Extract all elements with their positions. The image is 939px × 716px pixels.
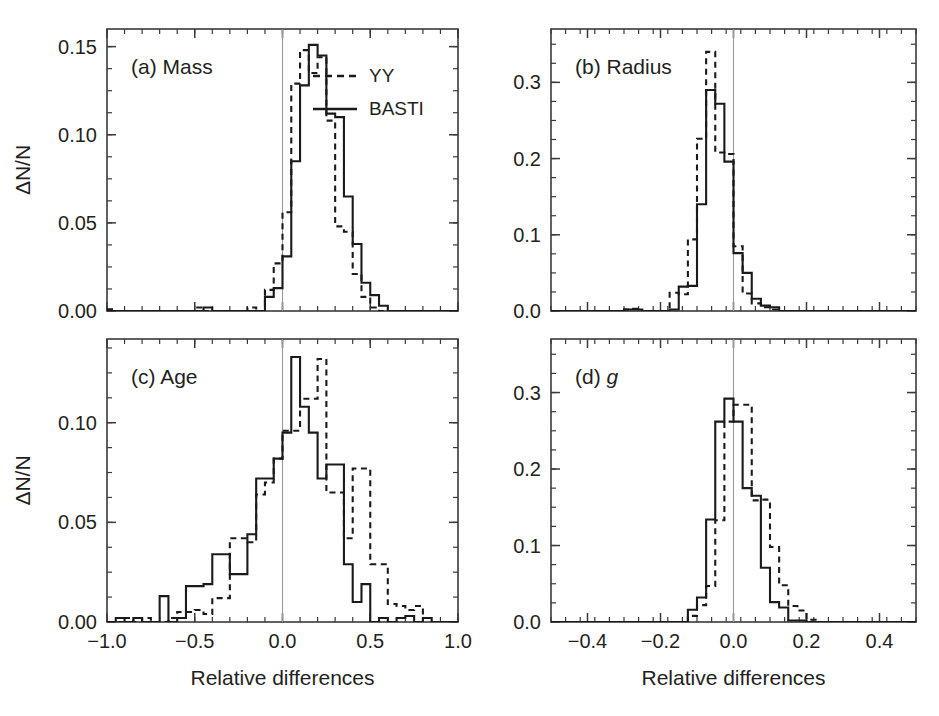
panel-b-label: (b) Radius xyxy=(575,55,672,78)
multi-panel-histogram-figure: 0.000.050.100.15(a) Mass0.00.10.20.3(b) … xyxy=(0,0,939,716)
panel-b-label-letter: (b) xyxy=(575,55,607,78)
panel-c-label-letter: (c) xyxy=(131,365,160,388)
ylabel-bottom: ΔN/N xyxy=(11,455,34,505)
panel-a-yticklabel: 0.10 xyxy=(58,124,97,146)
legend-label-yy: YY xyxy=(369,65,395,86)
panel-c-yticklabel: 0.00 xyxy=(58,611,97,633)
panel-b-yticklabel: 0.0 xyxy=(513,300,541,322)
panel-d-xticklabel: 0.2 xyxy=(793,630,821,652)
panel-d-yticklabel: 0.0 xyxy=(513,611,541,633)
panel-b-yticklabel: 0.3 xyxy=(513,71,541,93)
figure-background xyxy=(0,0,939,716)
panel-b-yticklabel: 0.1 xyxy=(513,224,541,246)
panel-b-label-name: Radius xyxy=(607,55,672,78)
panel-d-label-letter: (d) xyxy=(575,365,607,388)
panel-c-xticklabel: −0.5 xyxy=(175,630,214,652)
panel-d-yticklabel: 0.3 xyxy=(513,382,541,404)
xlabel-left: Relative differences xyxy=(190,666,374,689)
panel-c-label: (c) Age xyxy=(131,365,198,388)
panel-d-xticklabel: 0.0 xyxy=(720,630,748,652)
panel-c-xticklabel: 0.5 xyxy=(356,630,384,652)
xlabel-right: Relative differences xyxy=(641,666,825,689)
panel-b-yticklabel: 0.2 xyxy=(513,148,541,170)
panel-c-xticklabel: −1.0 xyxy=(87,630,126,652)
panel-d-label-name: g xyxy=(607,365,619,388)
panel-a-label-name: Mass xyxy=(163,55,213,78)
panel-c-xticklabel: 0.0 xyxy=(269,630,297,652)
panel-a-yticklabel: 0.00 xyxy=(58,300,97,322)
ylabel-top: ΔN/N xyxy=(11,145,34,195)
panel-c-label-name: Age xyxy=(160,365,197,388)
panel-d-xticklabel: 0.4 xyxy=(866,630,894,652)
panel-c-xticklabel: 1.0 xyxy=(444,630,472,652)
panel-d-xticklabel: −0.4 xyxy=(568,630,607,652)
figure-container: 0.000.050.100.15(a) Mass0.00.10.20.3(b) … xyxy=(0,0,939,716)
panel-d-yticklabel: 0.2 xyxy=(513,458,541,480)
panel-c-yticklabel: 0.10 xyxy=(58,412,97,434)
panel-a-yticklabel: 0.05 xyxy=(58,212,97,234)
panel-a-yticklabel: 0.15 xyxy=(58,36,97,58)
panel-d-xticklabel: −0.2 xyxy=(641,630,680,652)
panel-d-yticklabel: 0.1 xyxy=(513,535,541,557)
panel-a-label: (a) Mass xyxy=(131,55,213,78)
legend-label-basti: BASTI xyxy=(369,98,424,119)
panel-a-label-letter: (a) xyxy=(131,55,163,78)
panel-d-label: (d) g xyxy=(575,365,619,388)
panel-c-yticklabel: 0.05 xyxy=(58,511,97,533)
